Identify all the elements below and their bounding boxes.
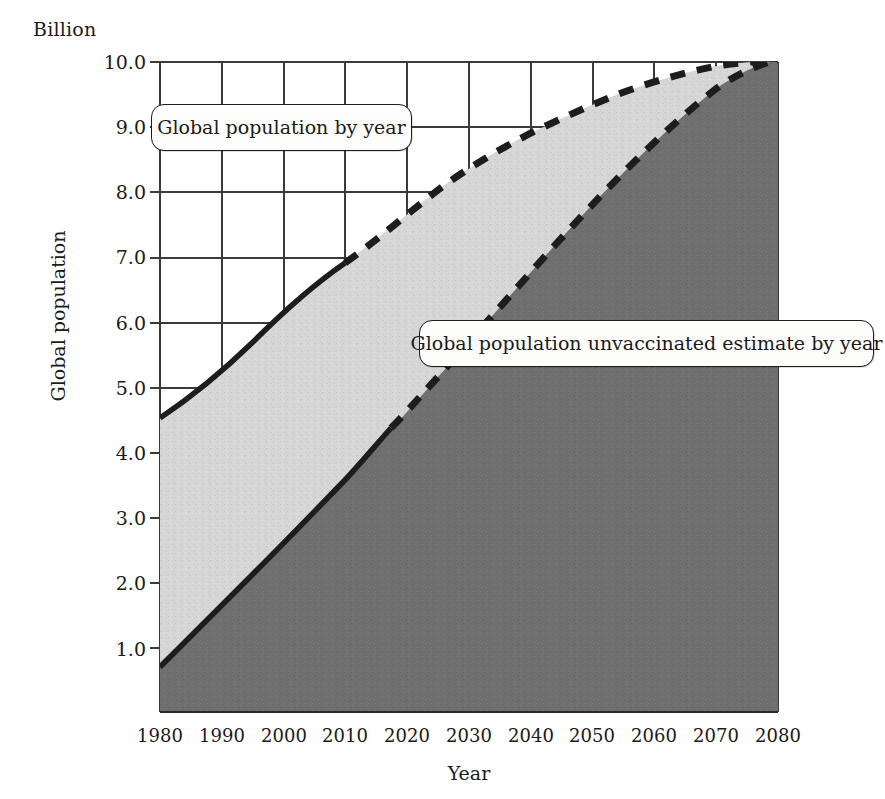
plot-canvas [0,0,885,799]
callout-unvaccinated-population: Global population unvaccinated estimate … [419,320,874,367]
callout-unvaccinated-population-label: Global population unvaccinated estimate … [411,334,883,353]
population-area-chart: Billion Global population Year 10.0 9.0 … [0,0,885,799]
callout-total-population: Global population by year [151,104,412,151]
callout-total-population-label: Global population by year [157,118,405,137]
